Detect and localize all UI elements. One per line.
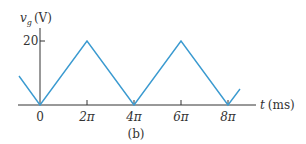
x-tick-label-8pi: 8π [220, 110, 237, 124]
y-axis-label-sub: g [27, 18, 32, 27]
triangular-wave-plot: vg(V) 20 0 2π 4π 6π 8π t(ms) (b) [0, 0, 306, 144]
x-tick-label-4pi: 4π [125, 110, 143, 124]
y-tick-label-20: 20 [23, 34, 38, 48]
x-tick-label-2pi: 2π [78, 110, 96, 124]
x-tick-label-6pi: 6π [173, 110, 190, 124]
svg-text:vg(V): vg(V) [20, 11, 52, 27]
figure-caption: (b) [127, 127, 144, 141]
y-axis-label-unit: (V) [34, 11, 52, 25]
svg-text:t(ms): t(ms) [260, 98, 295, 112]
waveform-line [19, 41, 240, 105]
x-axis-label-unit: (ms) [268, 98, 295, 112]
x-axis-label-var: t [260, 98, 265, 112]
x-tick-label-0: 0 [36, 110, 44, 124]
